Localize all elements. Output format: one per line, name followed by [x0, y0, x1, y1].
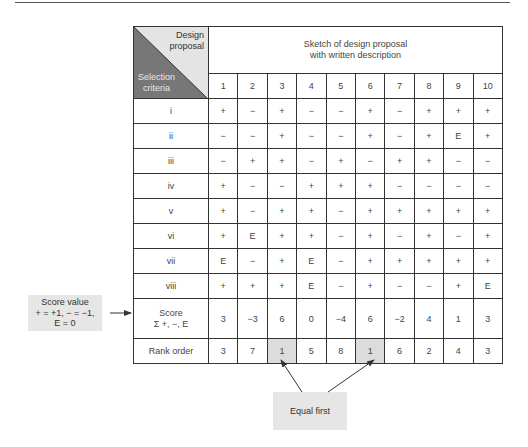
equal-first-arrow-left: [281, 360, 302, 392]
equal-first-arrow-right: [328, 360, 374, 392]
annotation-arrows: [0, 0, 528, 447]
